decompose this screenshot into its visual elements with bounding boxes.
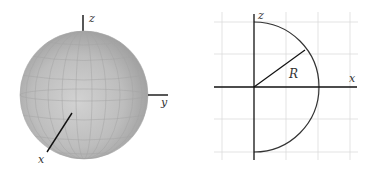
x-axis-label-right: x [349,72,356,85]
z-axis-label: z [88,12,95,25]
radius-label: R [288,67,298,81]
grid [214,12,358,160]
sphere-diagram: z y x [20,12,168,166]
figure-canvas: z y x R z x [0,0,371,172]
x-axis-label: x [38,153,45,166]
cross-section-diagram: R z x [214,9,358,160]
y-axis-label: y [160,96,168,109]
z-axis-label-right: z [257,9,264,22]
